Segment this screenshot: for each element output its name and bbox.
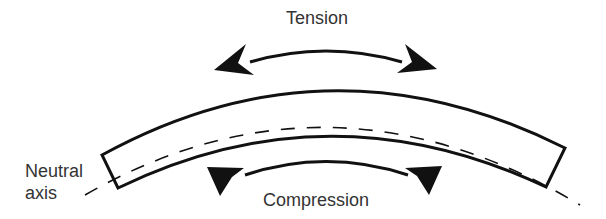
tension-arrow [214,44,437,75]
compression-label: Compression [263,190,369,210]
tension-label: Tension [286,8,348,28]
neutral-axis-label-line2: axis [25,182,83,204]
curved-beam [102,91,565,188]
neutral-axis-label-line1: Neutral [25,160,83,182]
beam-diagram [0,0,606,219]
neutral-axis-label: Neutral axis [25,160,83,204]
